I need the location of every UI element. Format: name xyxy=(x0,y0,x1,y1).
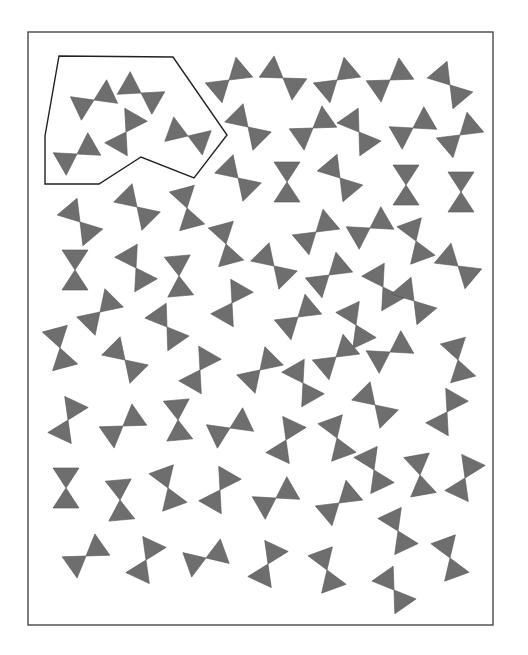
bowtie-shape xyxy=(445,454,485,501)
bowtie-triangle xyxy=(199,346,222,370)
bowtie-triangle xyxy=(366,80,390,102)
bowtie-shape xyxy=(397,218,435,264)
bowtie-triangle xyxy=(126,560,150,584)
bowtie-shape xyxy=(126,536,166,583)
bowtie-triangle xyxy=(57,198,80,222)
bowtie-triangle xyxy=(337,108,359,132)
bowtie-shape xyxy=(53,468,79,508)
bowtie-triangle xyxy=(211,303,234,327)
bowtie-triangle xyxy=(426,412,449,436)
bowtie-triangle xyxy=(145,303,167,327)
bowtie-triangle xyxy=(322,570,347,593)
bowtie-shape xyxy=(362,263,405,311)
bowtie-triangle xyxy=(414,301,437,325)
bowtie-triangle xyxy=(248,564,271,588)
bowtie-triangle xyxy=(397,218,422,241)
bowtie-shape xyxy=(62,534,110,578)
bowtie-triangle xyxy=(370,207,394,230)
bowtie-triangle xyxy=(237,370,260,393)
bowtie-shape xyxy=(99,404,147,448)
bowtie-shape xyxy=(205,57,252,103)
bowtie-triangle xyxy=(460,112,484,135)
bowtie-triangle xyxy=(312,357,336,380)
bowtie-shape xyxy=(337,108,381,156)
bowtie-triangle xyxy=(117,72,141,95)
bowtie-triangle xyxy=(168,276,194,297)
bowtie-triangle xyxy=(390,331,414,354)
bowtie-triangle xyxy=(451,360,476,383)
bowtie-shape xyxy=(211,279,254,327)
bowtie-shape xyxy=(251,243,298,290)
bowtie-triangle xyxy=(143,536,167,560)
bowtie-triangle xyxy=(219,244,244,267)
bowtie-triangle xyxy=(446,388,469,412)
bowtie-field xyxy=(42,56,485,614)
bowtie-triangle xyxy=(149,465,174,488)
bowtie-triangle xyxy=(274,317,298,340)
bowtie-triangle xyxy=(308,547,333,570)
bowtie-triangle xyxy=(266,440,290,464)
bowtie-triangle xyxy=(315,503,339,526)
bowtie-triangle xyxy=(362,263,385,287)
bowtie-triangle xyxy=(62,270,88,290)
bowtie-triangle xyxy=(48,420,72,444)
bowtie-triangle xyxy=(53,488,79,508)
bowtie-shape xyxy=(105,108,148,156)
bowtie-shape xyxy=(62,250,88,290)
bowtie-triangle xyxy=(77,133,101,156)
bowtie-triangle xyxy=(359,132,381,156)
bowtie-triangle xyxy=(302,383,325,407)
bowtie-triangle xyxy=(282,359,305,383)
bowtie-triangle xyxy=(339,480,363,503)
bowtie-triangle xyxy=(440,337,465,360)
bowtie-shape xyxy=(208,221,243,266)
bowtie-triangle xyxy=(135,268,158,292)
bowtie-triangle xyxy=(260,347,283,370)
worksheet xyxy=(0,0,528,655)
bowtie-triangle xyxy=(292,232,316,255)
bowtie-triangle xyxy=(163,488,188,511)
bowtie-shape xyxy=(70,80,117,120)
bowtie-triangle xyxy=(352,382,375,405)
bowtie-shape xyxy=(389,107,437,150)
bowtie-shape xyxy=(312,334,359,380)
bowtie-triangle xyxy=(445,558,470,581)
bowtie-triangle xyxy=(462,454,486,478)
bowtie-triangle xyxy=(411,241,436,264)
bowtie-triangle xyxy=(305,275,329,298)
bowtie-triangle xyxy=(62,556,86,578)
bowtie-shape xyxy=(145,303,189,351)
bowtie-triangle xyxy=(313,106,337,128)
bowtie-shape xyxy=(317,154,363,201)
bowtie-shape xyxy=(53,133,101,176)
bowtie-shape xyxy=(318,415,356,461)
bowtie-shape xyxy=(354,446,394,493)
bowtie-triangle xyxy=(371,470,395,494)
bowtie-shape xyxy=(266,416,306,463)
bowtie-triangle xyxy=(167,327,189,351)
bowtie-triangle xyxy=(205,80,229,103)
bowtie-shape xyxy=(378,507,418,554)
bowtie-shape xyxy=(440,337,475,382)
bowtie-shape xyxy=(352,382,399,429)
bowtie-shape xyxy=(206,408,253,448)
bowtie-shape xyxy=(237,347,284,394)
bowtie-triangle xyxy=(395,531,419,555)
bowtie-triangle xyxy=(375,405,398,428)
bowtie-shape xyxy=(366,58,414,102)
bowtie-triangle xyxy=(274,266,297,289)
bowtie-shape xyxy=(434,243,481,289)
bowtie-shape xyxy=(163,399,192,441)
bowtie-triangle xyxy=(77,312,100,335)
bowtie-triangle xyxy=(163,399,189,420)
bowtie-triangle xyxy=(274,182,300,202)
bowtie-shape xyxy=(308,547,346,593)
bowtie-triangle xyxy=(123,404,147,426)
bowtie-triangle xyxy=(332,438,357,461)
bowtie-shape xyxy=(42,325,77,370)
bowtie-triangle xyxy=(413,107,437,130)
bowtie-triangle xyxy=(215,155,238,178)
bowtie-shape xyxy=(114,184,161,231)
bowtie-triangle xyxy=(298,294,322,317)
bowtie-triangle xyxy=(378,507,402,531)
